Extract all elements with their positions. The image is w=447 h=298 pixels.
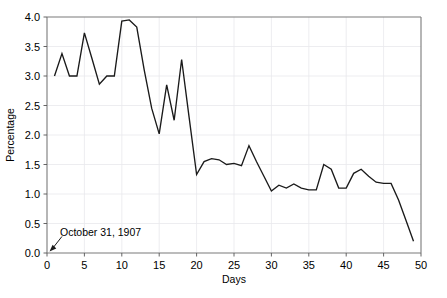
x-tick-label: 25 — [228, 259, 240, 271]
x-tick-label: 10 — [116, 259, 128, 271]
y-tick-label: 3.5 — [25, 41, 40, 53]
y-tick-label: 1.5 — [25, 159, 40, 171]
y-tick-label: 1.0 — [25, 188, 40, 200]
x-axis-ticks: 05101520253035404550 — [44, 253, 427, 271]
y-tick-label: 3.0 — [25, 70, 40, 82]
chart-figure: 05101520253035404550 0.00.51.01.52.02.53… — [0, 0, 447, 298]
annotation-layer: October 31, 1907 — [50, 226, 142, 252]
x-tick-label: 45 — [377, 259, 389, 271]
x-tick-label: 20 — [190, 259, 202, 271]
percentage-over-days-line-chart: 05101520253035404550 0.00.51.01.52.02.53… — [0, 0, 447, 298]
x-tick-label: 40 — [340, 259, 352, 271]
x-tick-label: 30 — [265, 259, 277, 271]
x-tick-label: 35 — [303, 259, 315, 271]
x-tick-label: 50 — [415, 259, 427, 271]
y-tick-label: 4.0 — [25, 11, 40, 23]
annotation-label-october-31-1907: October 31, 1907 — [60, 226, 141, 238]
y-axis-ticks: 0.00.51.01.52.02.53.03.54.0 — [25, 11, 47, 259]
x-tick-label: 0 — [44, 259, 50, 271]
y-axis-title: Percentage — [4, 108, 16, 162]
y-tick-label: 0.5 — [25, 218, 40, 230]
x-tick-label: 15 — [153, 259, 165, 271]
y-tick-label: 2.0 — [25, 129, 40, 141]
grid-lines — [47, 17, 421, 253]
y-tick-label: 2.5 — [25, 100, 40, 112]
x-tick-label: 5 — [81, 259, 87, 271]
y-tick-label: 0.0 — [25, 247, 40, 259]
x-axis-title: Days — [222, 273, 246, 285]
